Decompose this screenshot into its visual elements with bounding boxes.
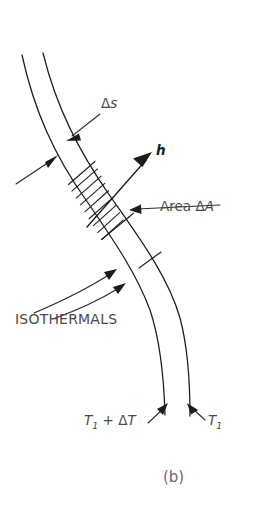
delta-s-label: Δs	[101, 95, 117, 111]
area-label: Area ΔA	[160, 198, 214, 214]
flux-vector-label: h	[156, 142, 166, 158]
temperature-hot-label: T1 + ΔT	[84, 412, 137, 431]
figure-background	[0, 0, 254, 507]
area-symbol-glyph: A	[204, 198, 214, 214]
isothermals-label: ISOTHERMALS	[15, 311, 117, 327]
temp-cold-subscript-glyph: 1	[216, 420, 222, 431]
area-word-glyph: Area	[160, 198, 191, 214]
figure-caption: (b)	[163, 468, 184, 486]
figure-container: Δs h Area ΔA ISOTHERMALS T1 + ΔT T1 (b)	[0, 0, 254, 507]
temp-hot-operator-glyph: +	[103, 412, 114, 428]
heat-flow-tube-diagram: Δs h Area ΔA ISOTHERMALS T1 + ΔT T1 (b)	[0, 0, 254, 507]
delta-s-symbol-glyph: s	[110, 95, 117, 111]
